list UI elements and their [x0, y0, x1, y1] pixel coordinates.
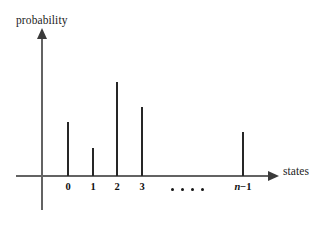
y-axis-title: probability	[16, 14, 68, 26]
ellipsis-dot	[191, 188, 194, 191]
tick-label-0: 0	[65, 181, 70, 192]
ellipsis-dot	[171, 188, 174, 191]
tick-label-3: 3	[139, 181, 144, 192]
ellipsis-dot	[181, 188, 184, 191]
bar-2	[116, 82, 118, 176]
probability-distribution-figure: probability states 0123n−1	[0, 0, 327, 226]
tick-label-n-1: n−1	[234, 181, 251, 192]
ellipsis-annotation	[171, 188, 204, 191]
x-axis-title: states	[283, 165, 309, 177]
bar-1	[92, 148, 94, 176]
x-axis-arrowhead-icon	[268, 171, 279, 181]
y-axis-arrowhead-icon	[37, 28, 47, 39]
bar-n-1	[242, 132, 244, 176]
tick-label-1: 1	[90, 181, 95, 192]
tick-label-2: 2	[114, 181, 119, 192]
y-axis-line	[41, 36, 43, 210]
bar-3	[141, 107, 143, 176]
x-axis-line	[16, 175, 270, 177]
bar-0	[67, 122, 69, 176]
ellipsis-dot	[201, 188, 204, 191]
